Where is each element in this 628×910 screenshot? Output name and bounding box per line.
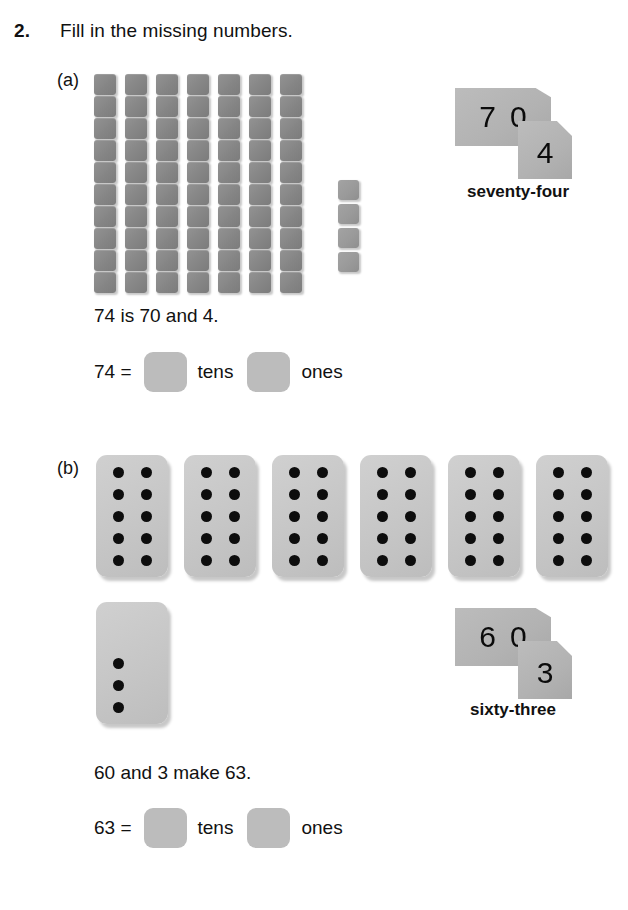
base-ten-rods-group [94,74,302,293]
unit-cube [125,140,147,161]
dot [465,489,476,500]
unit-cube [125,118,147,139]
number-word-a: seventy-four [467,182,569,202]
unit-cube [156,96,178,117]
unit-cube [156,206,178,227]
dot [113,680,124,691]
unit-cube [125,96,147,117]
ones-block [338,228,359,248]
tens-rod [94,74,116,293]
answer-box-tens-a[interactable] [144,352,187,392]
unit-cube [156,162,178,183]
dot [405,511,416,522]
dot [141,636,152,647]
unit-cube [94,96,116,117]
unit-cube [218,184,240,205]
unit-cube [156,74,178,95]
unit-cube [218,96,240,117]
unit-cube [280,250,302,271]
dot [377,533,388,544]
tens-rod [218,74,240,293]
unit-cube [94,140,116,161]
dot [229,533,240,544]
dot [141,680,152,691]
unit-cube [125,162,147,183]
unit-cube [156,118,178,139]
unit-cube [156,140,178,161]
dot [317,533,328,544]
dot [377,511,388,522]
ten-frame-card [272,455,344,577]
dot [201,489,212,500]
part-label-a: (a) [57,70,79,91]
unit-cube [249,228,271,249]
dot [553,533,564,544]
sentence-b: 60 and 3 make 63. [94,762,251,784]
dot [113,658,124,669]
dot [377,489,388,500]
number-card-ones-b[interactable]: 3 [518,641,572,699]
dot [317,467,328,478]
dot [465,555,476,566]
dot [289,555,300,566]
dot [141,555,152,566]
dot [113,467,124,478]
dot [405,555,416,566]
ten-frame-card [360,455,432,577]
unit-cube [187,272,209,293]
ten-frame-card [184,455,256,577]
answer-box-tens-b[interactable] [144,808,187,848]
number-card-ones-a[interactable]: 4 [518,121,572,179]
unit-cube [156,272,178,293]
dot [113,702,124,713]
dot [553,489,564,500]
unit-cube [156,228,178,249]
unit-cube [249,162,271,183]
answer-box-ones-b[interactable] [247,808,290,848]
dot [465,533,476,544]
unit-ones-a: ones [301,361,342,383]
unit-cube [249,118,271,139]
unit-cube [94,162,116,183]
dot [141,467,152,478]
dot [201,467,212,478]
dot [229,489,240,500]
unit-cube [156,250,178,271]
unit-cube [94,184,116,205]
unit-cube [187,184,209,205]
unit-cube [249,184,271,205]
answer-box-ones-a[interactable] [247,352,290,392]
unit-cube [218,118,240,139]
question-instruction: Fill in the missing numbers. [60,20,293,42]
dot [317,489,328,500]
dot [289,511,300,522]
dot [113,636,124,647]
dot [493,467,504,478]
partial-dot-card [96,602,168,724]
dot [113,489,124,500]
ten-frame-card [448,455,520,577]
unit-cube [280,74,302,95]
dot [229,555,240,566]
ten-frame-card [96,455,168,577]
dot [113,511,124,522]
unit-cube [187,206,209,227]
dot [465,467,476,478]
dot [141,511,152,522]
tens-digit-1-a: 7 [479,102,496,132]
unit-cube [125,272,147,293]
unit-cube [280,206,302,227]
dot [553,511,564,522]
dot [317,511,328,522]
dot [405,533,416,544]
dot [581,533,592,544]
unit-cube [249,250,271,271]
dot [405,489,416,500]
unit-cube [249,140,271,161]
dot [493,533,504,544]
unit-cube [187,228,209,249]
unit-cube [94,206,116,227]
dot [553,467,564,478]
dot [141,614,152,625]
dot [581,511,592,522]
